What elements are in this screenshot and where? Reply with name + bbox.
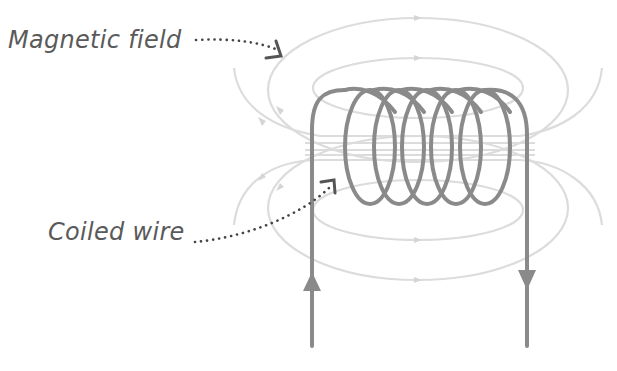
coil-turn	[345, 90, 395, 204]
pointer-heads	[266, 41, 335, 193]
coil-turn	[431, 90, 481, 204]
pointer-magnetic-field	[196, 39, 278, 50]
magnetic-field-label: Magnetic field	[8, 26, 182, 54]
coil-turn	[374, 90, 424, 204]
arrow-up-icon	[303, 272, 321, 291]
arrowhead-icon	[266, 41, 281, 58]
coiled-wire-label: Coiled wire	[48, 218, 185, 246]
field-line-right-upper	[520, 68, 602, 136]
arrow-left-icon	[258, 117, 266, 126]
arrow-right-icon	[414, 237, 422, 243]
arrow-right-icon	[414, 15, 422, 21]
arrow-down-icon	[518, 270, 536, 290]
coiled-wire	[312, 89, 527, 346]
arrow-right-icon	[414, 277, 422, 283]
solenoid-diagram	[0, 0, 617, 371]
arrowhead-icon	[321, 180, 335, 193]
field-line-right-lower	[520, 160, 602, 225]
arrow-right-icon	[414, 55, 422, 61]
coil-turn	[402, 90, 452, 204]
